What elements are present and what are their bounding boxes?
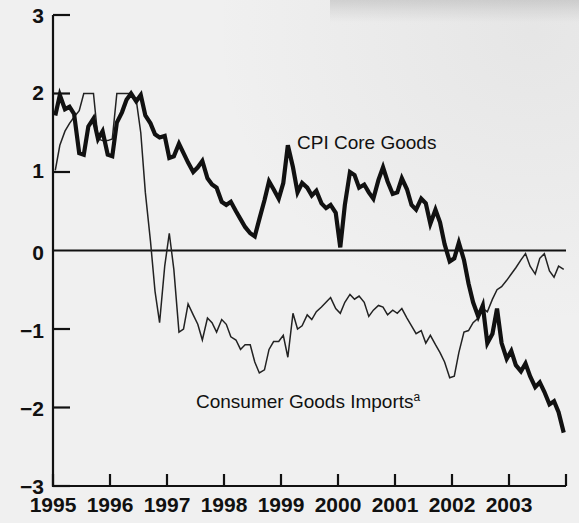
series-label-consumer-goods-imports: Consumer Goods Importsa bbox=[196, 392, 420, 411]
footnote-marker-a: a bbox=[414, 390, 421, 404]
chart-figure: 3 2 1 0 −1 −2 −3 1995 1996 1997 1998 199… bbox=[0, 0, 579, 523]
y-tick-label-neg1: −1 bbox=[0, 320, 44, 341]
series-label-cpi-core-goods: CPI Core Goods bbox=[297, 133, 436, 152]
series-label-imports-text: Consumer Goods Imports bbox=[196, 391, 414, 412]
line-chart-plot bbox=[0, 0, 579, 523]
y-tick-label-0: 0 bbox=[8, 242, 44, 263]
x-tick-label-2003: 2003 bbox=[473, 494, 545, 515]
y-tick-label-neg2: −2 bbox=[0, 398, 44, 419]
y-tick-label-3: 3 bbox=[8, 5, 44, 26]
y-tick-label-2: 2 bbox=[8, 82, 44, 103]
y-tick-label-1: 1 bbox=[8, 160, 44, 181]
